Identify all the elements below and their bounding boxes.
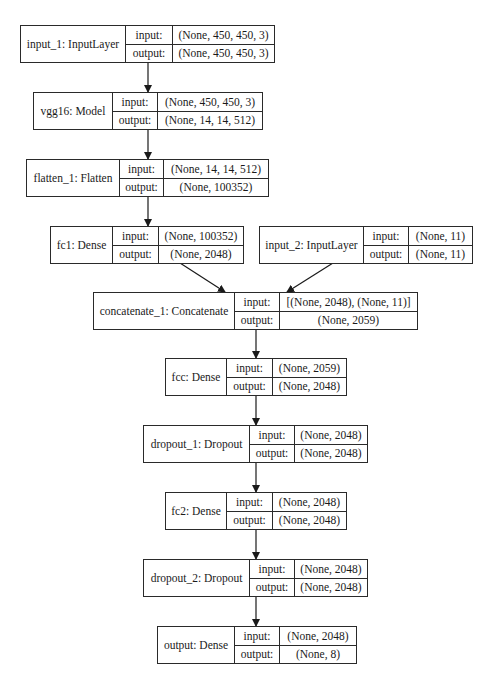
input-shape: (None, 450, 450, 3) [173, 26, 274, 45]
output-label: output: [250, 445, 294, 463]
output-label: output: [113, 246, 158, 264]
input-label: input: [235, 627, 279, 646]
input-label: input: [126, 26, 172, 45]
output-shape: (None, 2048) [295, 445, 367, 463]
node-fc1: fc1: Dense input: output: (None, 100352)… [50, 226, 244, 264]
node-input_1: input_1: InputLayer input: output: (None… [20, 25, 275, 63]
input-label: input: [364, 227, 408, 246]
output-label: output: [227, 512, 272, 530]
input-label: input: [113, 227, 158, 246]
output-shape: (None, 14, 14, 512) [158, 112, 262, 130]
output-label: output: [120, 179, 163, 197]
input-label: input: [113, 93, 157, 112]
output-label: output: [364, 246, 408, 264]
edge-fc1-concatenate_1 [180, 263, 225, 292]
input-shape: (None, 2048) [280, 627, 356, 646]
input-label: input: [235, 293, 279, 312]
input-shape: (None, 14, 14, 512) [164, 160, 268, 179]
input-label: input: [120, 160, 163, 179]
output-shape: (None, 2059) [280, 312, 417, 330]
node-dropout_1: dropout_1: Dropout input: output: (None,… [143, 425, 368, 463]
output-label: output: [235, 646, 279, 664]
input-label: input: [250, 560, 294, 579]
node-name: fc2: Dense [166, 493, 227, 529]
node-name: input_2: InputLayer [260, 227, 364, 263]
output-label: output: [126, 45, 172, 63]
input-shape: (None, 2048) [273, 493, 346, 512]
output-shape: (None, 2048) [159, 246, 243, 264]
input-label: input: [250, 426, 294, 445]
node-vgg16: vgg16: Model input: output: (None, 450, … [33, 92, 263, 130]
model-diagram: input_1: InputLayer input: output: (None… [0, 0, 499, 681]
node-fc2: fc2: Dense input: output: (None, 2048) (… [165, 492, 347, 530]
node-fcc: fcc: Dense input: output: (None, 2059) (… [165, 358, 347, 396]
input-shape: (None, 11) [409, 227, 472, 246]
output-label: output: [227, 378, 272, 396]
output-shape: (None, 2048) [273, 512, 346, 530]
node-name: input_1: InputLayer [21, 26, 126, 62]
input-shape: [(None, 2048), (None, 11)] [280, 293, 417, 312]
node-name: fc1: Dense [51, 227, 113, 263]
output-shape: (None, 100352) [164, 179, 268, 197]
output-label: output: [250, 579, 294, 597]
output-shape: (None, 450, 450, 3) [173, 45, 274, 63]
output-label: output: [235, 312, 279, 330]
input-label: input: [227, 493, 272, 512]
output-label: output: [113, 112, 157, 130]
output-shape: (None, 8) [280, 646, 356, 664]
node-name: concatenate_1: Concatenate [94, 293, 235, 329]
node-dropout_2: dropout_2: Dropout input: output: (None,… [143, 559, 368, 597]
input-shape: (None, 100352) [159, 227, 243, 246]
input-label: input: [227, 359, 272, 378]
output-shape: (None, 2048) [273, 378, 346, 396]
node-name: vgg16: Model [34, 93, 113, 129]
node-name: fcc: Dense [166, 359, 227, 395]
edge-input_2-concatenate_1 [287, 263, 333, 292]
input-shape: (None, 2059) [273, 359, 346, 378]
node-output: output: Dense input: output: (None, 2048… [157, 626, 357, 664]
node-concatenate_1: concatenate_1: Concatenate input: output… [93, 292, 418, 330]
node-name: dropout_1: Dropout [144, 426, 250, 462]
node-flatten_1: flatten_1: Flatten input: output: (None,… [26, 159, 269, 197]
output-shape: (None, 11) [409, 246, 472, 264]
input-shape: (None, 450, 450, 3) [158, 93, 262, 112]
output-shape: (None, 2048) [295, 579, 367, 597]
node-name: output: Dense [158, 627, 235, 663]
node-name: flatten_1: Flatten [27, 160, 120, 196]
input-shape: (None, 2048) [295, 426, 367, 445]
input-shape: (None, 2048) [295, 560, 367, 579]
node-input_2: input_2: InputLayer input: output: (None… [259, 226, 473, 264]
node-name: dropout_2: Dropout [144, 560, 250, 596]
